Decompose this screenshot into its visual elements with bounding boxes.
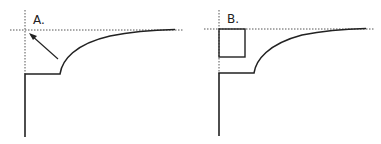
arrow-shaft bbox=[31, 35, 58, 59]
panel-label-a: A. bbox=[33, 13, 45, 27]
panel-label-b: B. bbox=[227, 12, 239, 26]
panel-b: B. bbox=[204, 10, 374, 136]
response-curve bbox=[219, 29, 366, 137]
diagram-canvas: A. B. bbox=[0, 0, 381, 144]
panel-a: A. bbox=[10, 10, 183, 137]
square-marker bbox=[219, 29, 245, 57]
response-curve bbox=[25, 30, 175, 138]
